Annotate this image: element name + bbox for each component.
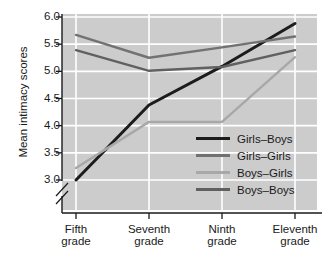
- x-tick-label-line2: grade: [185, 236, 259, 248]
- legend-item-label: Boys–Girls: [237, 167, 293, 179]
- legend-item-label: Boys–Boys: [237, 184, 295, 196]
- chart-legend: Girls–BoysGirls–GirlsBoys–GirlsBoys–Boys: [196, 130, 328, 198]
- legend-color-swatch: [196, 154, 230, 157]
- x-tick-label-line1: Seventh: [128, 223, 170, 235]
- x-tick-labels: FifthgradeSeventhgradeNinthgradeEleventh…: [0, 0, 333, 256]
- x-tick-label-line2: grade: [258, 236, 332, 248]
- legend-item[interactable]: Girls–Girls: [196, 147, 328, 164]
- x-tick-label-line1: Eleventh: [273, 223, 318, 235]
- x-tick-label: Seventhgrade: [112, 224, 186, 247]
- x-tick-label-line1: Ninth: [209, 223, 236, 235]
- legend-color-swatch: [196, 188, 230, 191]
- legend-item[interactable]: Boys–Boys: [196, 181, 328, 198]
- x-tick-label: Fifthgrade: [39, 224, 113, 247]
- legend-item-label: Girls–Girls: [237, 150, 291, 162]
- legend-item[interactable]: Girls–Boys: [196, 130, 328, 147]
- x-tick-label-line1: Fifth: [65, 223, 87, 235]
- x-tick-label: Ninthgrade: [185, 224, 259, 247]
- x-tick-label: Eleventhgrade: [258, 224, 332, 247]
- x-tick-label-line2: grade: [39, 236, 113, 248]
- legend-item-label: Girls–Boys: [237, 133, 293, 145]
- legend-color-swatch: [196, 171, 230, 174]
- x-tick-label-line2: grade: [112, 236, 186, 248]
- legend-item[interactable]: Boys–Girls: [196, 164, 328, 181]
- legend-color-swatch: [196, 137, 230, 140]
- chart-figure: Mean intimacy scores 3.03.54.04.55.05.56…: [0, 0, 333, 256]
